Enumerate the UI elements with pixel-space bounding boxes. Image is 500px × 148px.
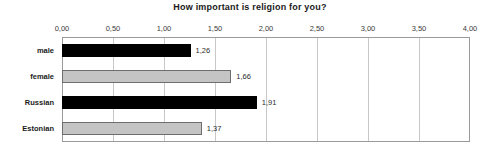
bar-male[interactable] — [62, 44, 191, 57]
bar-value-label: 1,37 — [207, 124, 222, 133]
x-axis-tick-labels: 0,000,501,001,502,002,503,003,504,00 — [62, 24, 470, 36]
category-label-male: male — [0, 37, 58, 63]
chart-title: How important is religion for you? — [0, 2, 500, 12]
bar-row: 1,66 — [62, 63, 470, 89]
bar-row: 1,91 — [62, 90, 470, 116]
category-label-estonian: Estonian — [0, 116, 58, 142]
bar-value-label: 1,91 — [262, 98, 277, 107]
bar-series: 1,261,661,911,37 — [62, 37, 470, 142]
category-label-female: female — [0, 63, 58, 89]
x-tick-label: 3,00 — [361, 24, 376, 33]
category-label-russian: Russian — [0, 90, 58, 116]
bar-value-label: 1,26 — [196, 46, 211, 55]
bar-row: 1,37 — [62, 116, 470, 142]
x-tick-label: 4,00 — [463, 24, 478, 33]
x-tick-label: 0,50 — [106, 24, 121, 33]
bar-estonian[interactable] — [62, 122, 202, 135]
bar-row: 1,26 — [62, 37, 470, 63]
chart-container: How important is religion for you? 0,000… — [0, 0, 500, 148]
x-tick-label: 0,00 — [55, 24, 70, 33]
bar-female[interactable] — [62, 70, 231, 83]
y-axis-category-labels: malefemaleRussianEstonian — [0, 37, 58, 142]
bar-russian[interactable] — [62, 96, 257, 109]
x-tick-label: 2,00 — [259, 24, 274, 33]
x-tick-label: 1,50 — [208, 24, 223, 33]
bar-value-label: 1,66 — [236, 72, 251, 81]
x-tick-label: 1,00 — [157, 24, 172, 33]
x-tick-label: 2,50 — [310, 24, 325, 33]
x-tick-label: 3,50 — [412, 24, 427, 33]
